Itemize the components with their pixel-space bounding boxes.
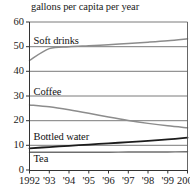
series-label-coffee: Coffee	[34, 86, 62, 97]
y-tick-label: 60	[0, 17, 24, 28]
y-tick-label: 50	[0, 41, 24, 52]
y-tick-label: 10	[0, 140, 24, 151]
series-line-coffee	[30, 105, 188, 128]
y-tick-label: 30	[0, 91, 24, 102]
series-label-soft-drinks: Soft drinks	[34, 35, 79, 46]
y-tick-label: 0	[0, 165, 24, 176]
plot-area	[0, 0, 190, 190]
series-line-tea	[30, 152, 188, 153]
y-tick-label: 40	[0, 66, 24, 77]
series-label-tea: Tea	[34, 153, 49, 164]
x-tick-label: 2000	[172, 175, 191, 186]
series-label-bottled-water: Bottled water	[34, 131, 90, 142]
y-tick-label: 20	[0, 115, 24, 126]
beverage-consumption-chart: gallons per capita per year 010203040506…	[0, 0, 190, 190]
